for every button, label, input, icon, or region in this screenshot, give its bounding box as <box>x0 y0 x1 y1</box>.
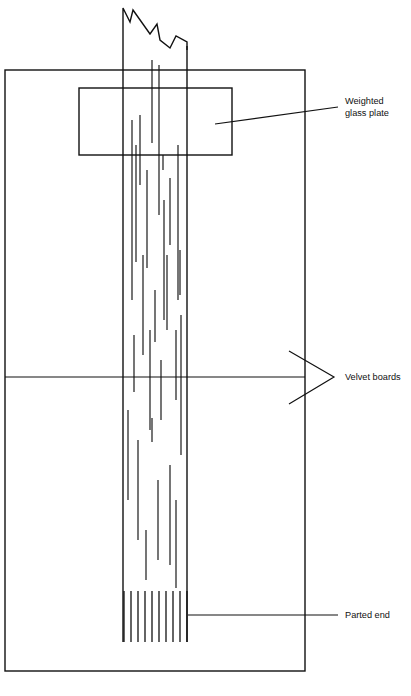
diagram-canvas: Weightedglass plateVelvet boardsParted e… <box>0 0 411 696</box>
velvet-board-outline <box>5 70 305 671</box>
technical-diagram: Weightedglass plateVelvet boardsParted e… <box>0 0 411 696</box>
label-parted-end: Parted end <box>345 610 390 620</box>
leader-lines-layer <box>188 107 338 615</box>
parted-end-layer <box>124 591 187 642</box>
weighted-glass-plate-layer <box>79 88 232 155</box>
label-weighted-glass-plate-line2: glass plate <box>345 108 389 118</box>
callout-labels-layer: Weightedglass plateVelvet boardsParted e… <box>345 96 401 620</box>
label-velvet-boards: Velvet boards <box>345 372 401 382</box>
tress-break-zigzag <box>123 8 187 50</box>
weighted-glass-plate-rect <box>79 88 232 155</box>
label-weighted-glass-plate: Weighted <box>345 96 384 106</box>
inner-strands-layer <box>128 60 181 588</box>
leader-line-weighted-glass-plate <box>215 107 338 124</box>
velvet-board-frame-layer <box>5 70 305 671</box>
